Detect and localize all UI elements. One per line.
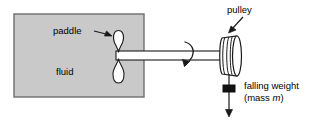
pulley-leader-arrow (229, 17, 244, 33)
string-and-weight (223, 74, 235, 117)
pulley-front-rim (233, 36, 242, 76)
label-mass-symbol: m (273, 92, 281, 103)
fall-arrow-head (226, 110, 233, 118)
pulley-leader-line (232, 17, 243, 29)
label-paddle: paddle (53, 25, 82, 36)
pulley (220, 36, 242, 76)
label-falling-weight: falling weight (244, 80, 299, 91)
pulley-leader-arrowhead (229, 26, 237, 33)
label-mass: (mass m) (244, 92, 284, 103)
label-pulley: pulley (227, 4, 252, 15)
label-mass-prefix: (mass (244, 92, 273, 103)
rotating-shaft (116, 51, 230, 60)
diagram-canvas: paddle fluid pulley falling weight (mass… (0, 0, 313, 120)
label-mass-suffix: ) (280, 92, 283, 103)
black-square-weight (223, 85, 235, 92)
paddle-wheel-diagram: paddle fluid pulley falling weight (mass… (0, 0, 313, 120)
shaft-body (116, 51, 230, 60)
label-fluid: fluid (56, 66, 73, 77)
